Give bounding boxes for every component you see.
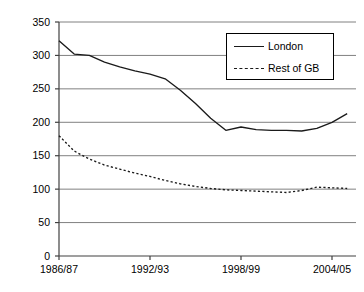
legend-item-rest-of-gb: Rest of GB	[227, 59, 335, 79]
series-line-rest-of-gb	[59, 136, 347, 193]
legend-line-swatch-solid	[234, 46, 264, 47]
chart-legend: London Rest of GB	[226, 33, 334, 80]
legend-label: London	[268, 40, 303, 53]
legend-item-london: London	[227, 37, 335, 57]
legend-line-swatch-dashed	[234, 68, 264, 69]
legend-label: Rest of GB	[268, 62, 319, 75]
line-chart: Cost per Bus Kilometre, 2006/07 prices 0…	[0, 0, 364, 292]
